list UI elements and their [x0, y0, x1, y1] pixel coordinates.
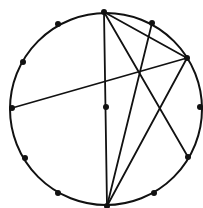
point-p10 — [20, 59, 26, 65]
point-center — [103, 104, 109, 110]
chord-p1-p6 — [107, 23, 152, 206]
chord-p2-p9 — [12, 58, 187, 108]
point-p5 — [151, 190, 157, 196]
circle-diagram — [0, 0, 203, 208]
point-p2 — [184, 55, 190, 61]
point-p11 — [55, 21, 61, 27]
chord-p2-p6 — [107, 58, 187, 206]
point-p12 — [101, 9, 107, 15]
point-p8 — [22, 155, 28, 161]
point-p1 — [149, 20, 155, 26]
point-p4 — [185, 154, 191, 160]
point-p3 — [197, 104, 203, 110]
point-p7 — [55, 190, 61, 196]
point-p9 — [9, 105, 15, 111]
